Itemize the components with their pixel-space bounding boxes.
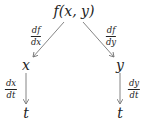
fraction-denominator: dx — [30, 37, 42, 47]
fraction-numerator: df — [106, 26, 117, 37]
fraction-denominator: dt — [6, 90, 17, 100]
fraction-denominator: dt — [129, 90, 140, 100]
node-y: y — [116, 58, 124, 72]
fraction-numerator: dx — [5, 79, 17, 90]
chain-rule-tree-diagram: f(x, y) x y t t df dx df dy dx dt dy dt — [0, 0, 149, 126]
fraction-denominator: dy — [105, 37, 117, 47]
edge-label-df-dx: df dx — [30, 26, 42, 46]
fraction-numerator: dy — [128, 79, 140, 90]
edge-label-dy-dt: dy dt — [128, 79, 140, 99]
node-x: x — [22, 58, 30, 72]
edge-label-df-dy: df dy — [105, 26, 117, 46]
node-t-left: t — [23, 106, 29, 120]
node-root-f-of-x-y: f(x, y) — [54, 4, 95, 18]
fraction-numerator: df — [31, 26, 42, 37]
node-t-right: t — [117, 106, 123, 120]
edge-label-dx-dt: dx dt — [5, 79, 17, 99]
